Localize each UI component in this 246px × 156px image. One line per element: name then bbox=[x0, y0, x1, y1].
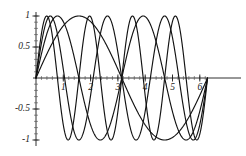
chart-canvas: 123456 10.5-0.5-1 bbox=[0, 0, 246, 156]
x-tick-label-5: 5 bbox=[170, 83, 175, 93]
y-tick-label-3: -0.5 bbox=[15, 104, 30, 114]
y-tick-label-1: 1 bbox=[25, 11, 30, 21]
x-tick-label-3: 3 bbox=[116, 83, 121, 93]
x-tick-label-2: 2 bbox=[88, 83, 93, 93]
x-tick-label-1: 1 bbox=[61, 83, 66, 93]
x-tick-label-4: 4 bbox=[143, 83, 148, 93]
x-tick-label-6: 6 bbox=[197, 83, 202, 93]
sine-harmonics-plot bbox=[0, 0, 246, 156]
y-tick-label-2: 0.5 bbox=[18, 42, 30, 52]
y-tick-label-4: -1 bbox=[22, 135, 30, 145]
